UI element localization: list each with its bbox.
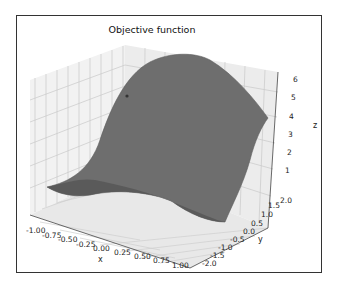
svg-text:-2.0: -2.0 xyxy=(202,259,217,268)
svg-text:0.75: 0.75 xyxy=(153,256,170,265)
svg-text:5: 5 xyxy=(291,93,296,102)
svg-text:0.50: 0.50 xyxy=(134,252,151,261)
svg-text:-1.0: -1.0 xyxy=(218,243,233,252)
marker-point xyxy=(125,94,128,97)
z-axis-label: z xyxy=(313,121,317,130)
svg-text:1.00: 1.00 xyxy=(172,261,189,270)
svg-text:-0.5: -0.5 xyxy=(230,235,245,244)
chart-title: Objective function xyxy=(109,24,196,35)
svg-text:0.25: 0.25 xyxy=(114,248,131,257)
x-axis-label: x xyxy=(98,255,103,264)
svg-text:2: 2 xyxy=(287,148,292,157)
svg-text:1.0: 1.0 xyxy=(261,210,273,219)
y-axis-label: y xyxy=(258,235,263,244)
svg-text:2.0: 2.0 xyxy=(280,196,292,205)
svg-text:3: 3 xyxy=(288,130,293,139)
svg-text:0.00: 0.00 xyxy=(93,244,110,253)
svg-text:1.5: 1.5 xyxy=(268,201,280,210)
svg-text:-0.50: -0.50 xyxy=(58,235,78,244)
svg-text:0.5: 0.5 xyxy=(251,219,263,228)
svg-text:-1.5: -1.5 xyxy=(210,251,225,260)
svg-text:6: 6 xyxy=(293,75,298,84)
svg-text:4: 4 xyxy=(289,112,294,121)
z-ticks: 6 5 4 3 2 1 xyxy=(285,75,298,175)
svg-text:0.0: 0.0 xyxy=(243,227,255,236)
svg-text:1: 1 xyxy=(285,166,290,175)
surface-plot: Objective function 6 5 4 3 2 1 z -1.00 -… xyxy=(0,0,340,292)
